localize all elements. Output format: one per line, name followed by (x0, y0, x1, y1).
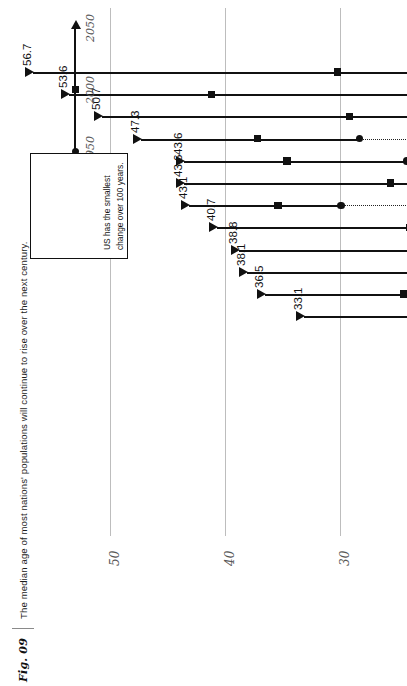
range-bar (217, 227, 407, 229)
marker-2000-square-icon (254, 135, 261, 142)
marker-2000-square-icon (346, 113, 353, 120)
axis-tick-30: 30 (338, 551, 352, 566)
figure-title: The median age of most nations' populati… (18, 242, 29, 619)
range-bar (184, 183, 407, 185)
legend-marker-square-icon (72, 86, 79, 93)
marker-2000-square-icon (274, 202, 281, 209)
value-label: 43.6 (172, 132, 184, 154)
range-bar (184, 161, 407, 163)
range-bar (102, 116, 407, 118)
caption-divider (12, 628, 34, 629)
marker-2050-triangle-icon (257, 289, 266, 299)
annotation-callout: US has the smallest change over 100 year… (30, 153, 128, 259)
value-label: 33.1 (292, 288, 304, 310)
range-bar (304, 316, 407, 318)
value-label: 40.7 (205, 199, 217, 221)
value-label: 38.8 (227, 221, 239, 243)
range-bar (247, 272, 407, 274)
value-label: 43.6 (172, 155, 184, 177)
axis-tick-50: 50 (108, 551, 122, 566)
marker-1950-circle-icon (356, 135, 363, 142)
marker-1950-circle-icon (337, 202, 344, 209)
marker-2050-triangle-icon (296, 311, 305, 321)
marker-2000-square-icon (400, 290, 407, 297)
marker-2050-triangle-icon (25, 67, 34, 77)
marker-2050-triangle-icon (239, 267, 248, 277)
marker-2000-square-icon (387, 179, 394, 186)
leader-line (360, 139, 407, 140)
value-label: 36.5 (253, 266, 265, 288)
chart-plot-area: 20304050 Median age 56.7South Korea53.6J… (46, 0, 407, 686)
marker-2000-square-icon (208, 91, 215, 98)
marker-2000-square-icon (334, 68, 341, 75)
value-label: 38.1 (235, 243, 247, 265)
marker-1950-circle-icon (403, 157, 407, 164)
figure-caption: Fig. 09 The median age of most nations' … (0, 0, 46, 686)
value-label: 43.1 (177, 177, 189, 199)
leader-line (341, 205, 407, 206)
legend-label-2000: 2000 (84, 76, 97, 104)
value-label: 56.7 (21, 44, 33, 66)
legend-marker-triangle-icon (71, 20, 81, 29)
axis-tick-40: 40 (223, 551, 237, 566)
figure-number: Fig. 09 (17, 638, 30, 682)
range-bar (265, 294, 407, 296)
marker-2000-square-icon (283, 157, 290, 164)
marker-2050-triangle-icon (209, 222, 218, 232)
legend-label-2050: 2050 (84, 14, 97, 42)
annotation-text: US has the smallest change over 100 year… (101, 158, 126, 250)
gridline-40 (225, 8, 226, 536)
marker-2050-triangle-icon (181, 200, 190, 210)
range-bar (239, 250, 407, 252)
